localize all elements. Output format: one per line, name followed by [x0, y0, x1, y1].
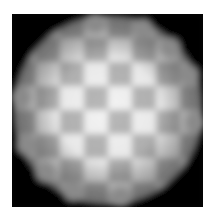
image-frame	[12, 14, 203, 207]
edge-bump	[63, 181, 83, 201]
edge-bump	[160, 38, 180, 58]
edge-bump	[110, 187, 130, 207]
edge-bump	[179, 65, 199, 85]
checkerboard-micrograph	[12, 14, 203, 207]
edge-bump	[133, 19, 153, 39]
edge-bump	[17, 135, 37, 155]
edge-bump	[36, 162, 56, 182]
